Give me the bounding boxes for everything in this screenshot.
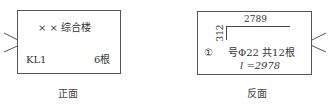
front-caption: 正面 [58, 85, 78, 100]
front-count: 6根 [94, 55, 110, 65]
back-dim-vertical: 312 [215, 24, 225, 41]
tag-back: 2789 312 ① 号Φ22 共12根 l =2978 [197, 11, 312, 75]
front-member: KL1 [26, 55, 46, 65]
bar-shape-vertical [226, 26, 227, 40]
back-length: l =2978 [240, 61, 280, 71]
back-dim-horizontal: 2789 [244, 15, 267, 24]
back-spec: 号Φ22 共12根 [228, 48, 295, 58]
tag-front: × × 综合楼 KL1 6根 [17, 10, 121, 74]
back-caption: 反面 [247, 85, 267, 100]
bar-shape-horizontal [226, 26, 290, 27]
front-title: × × 综合楼 [38, 23, 91, 33]
back-bar-number: ① [204, 48, 213, 58]
